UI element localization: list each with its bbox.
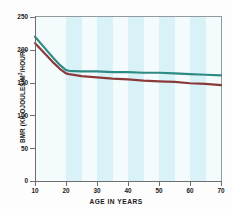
y-axis-tick [30, 115, 35, 116]
y-axis-tick [30, 148, 35, 149]
y-axis-tick-label: 100 [2, 112, 28, 119]
x-axis-tick [190, 181, 191, 186]
y-axis-tick-label: 150 [2, 79, 28, 86]
series-line [35, 37, 221, 76]
y-axis-tick-label: 250 [2, 13, 28, 20]
y-axis-tick [30, 50, 35, 51]
x-axis-tick [35, 181, 36, 186]
y-axis-tick [30, 17, 35, 18]
x-axis-tick-label: 20 [56, 187, 76, 194]
x-axis-tick [159, 181, 160, 186]
bmr-age-line-chart: BMR (KILOJOULES/M2/HOUR) 050100150200250… [0, 0, 232, 209]
x-axis-tick [66, 181, 67, 186]
y-axis-tick [30, 83, 35, 84]
x-axis-tick-label: 70 [211, 187, 231, 194]
x-axis-tick [97, 181, 98, 186]
x-axis-tick-label: 30 [87, 187, 107, 194]
y-axis-tick-label: 200 [2, 46, 28, 53]
series-line [35, 43, 221, 85]
x-axis-tick [128, 181, 129, 186]
x-axis-tick-label: 10 [25, 187, 45, 194]
x-axis-tick-label: 50 [149, 187, 169, 194]
y-axis-line [35, 16, 36, 182]
y-axis-tick-label: 50 [2, 145, 28, 152]
x-axis-tick-label: 60 [180, 187, 200, 194]
x-axis-title: AGE IN YEARS [0, 198, 232, 205]
x-axis-tick [221, 181, 222, 186]
x-axis-tick-label: 40 [118, 187, 138, 194]
y-axis-tick-label: 0 [2, 177, 28, 184]
